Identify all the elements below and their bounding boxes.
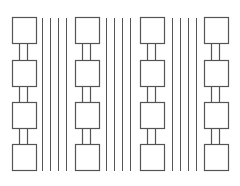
column-4	[205, 18, 229, 171]
column-1	[13, 18, 37, 171]
node-grid-diagram	[0, 0, 240, 186]
node-box	[205, 61, 229, 87]
node-box	[13, 61, 37, 87]
separator-group-1	[43, 18, 67, 171]
node-box	[141, 18, 165, 44]
node-box	[76, 61, 100, 87]
separator-group-3	[173, 18, 197, 171]
node-box	[13, 18, 37, 44]
column-2	[76, 18, 100, 171]
node-box	[141, 61, 165, 87]
node-box	[13, 103, 37, 129]
node-box	[76, 145, 100, 171]
node-box	[205, 18, 229, 44]
node-box	[13, 145, 37, 171]
node-box	[76, 18, 100, 44]
column-3	[141, 18, 165, 171]
separator-group-2	[107, 18, 131, 171]
node-box	[205, 103, 229, 129]
node-box	[141, 145, 165, 171]
node-box	[76, 103, 100, 129]
diagram-canvas	[0, 0, 240, 186]
node-box	[205, 145, 229, 171]
node-box	[141, 103, 165, 129]
